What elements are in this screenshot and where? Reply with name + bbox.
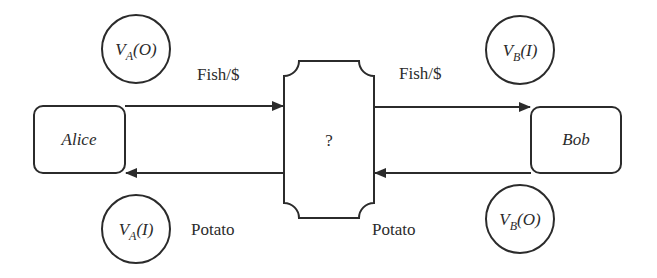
valuation-va-out: VA(O)	[102, 15, 170, 83]
valuation-vb-out: VB(O)	[486, 185, 554, 253]
middle-label: ?	[325, 131, 333, 150]
bob-node: Bob	[531, 107, 621, 173]
edge-label-alice-to-middle: Fish/$	[197, 65, 240, 84]
alice-label: Alice	[61, 130, 97, 149]
edge-label-middle-to-alice: Potato	[191, 220, 234, 239]
valuation-vb-in: VB(I)	[486, 16, 554, 84]
edge-label-middle-to-bob: Fish/$	[399, 64, 442, 83]
alice-node: Alice	[34, 106, 125, 173]
exchange-diagram: Alice Bob ? Fish/$ Fish/$ Potato Potato …	[0, 0, 657, 278]
edge-label-bob-to-middle: Potato	[372, 220, 415, 239]
valuation-va-in: VA(I)	[102, 195, 170, 263]
middle-node: ?	[284, 61, 374, 218]
bob-label: Bob	[562, 130, 589, 149]
